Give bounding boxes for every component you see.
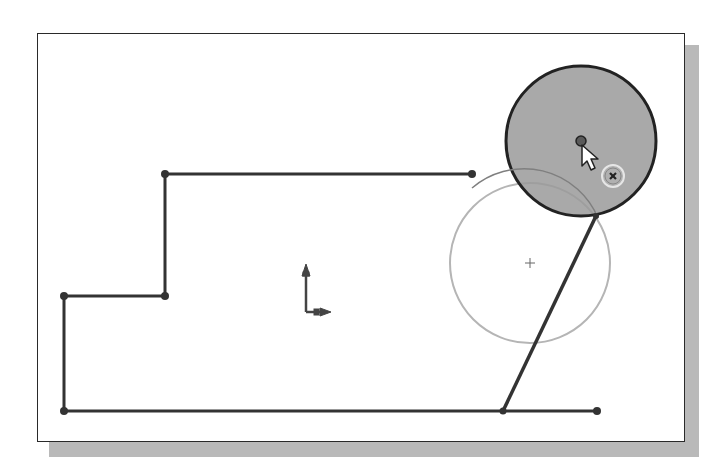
endpoint[interactable]	[593, 213, 599, 219]
circle-center-point[interactable]	[576, 136, 586, 146]
endpoint[interactable]	[500, 408, 507, 415]
endpoint[interactable]	[60, 407, 68, 415]
endpoint[interactable]	[468, 170, 476, 178]
sketch-viewport	[0, 0, 727, 476]
endpoint[interactable]	[593, 407, 601, 415]
tangent-line[interactable]	[503, 216, 596, 411]
endpoint[interactable]	[161, 170, 169, 178]
endpoint[interactable]	[60, 292, 68, 300]
sketch-geometry[interactable]	[0, 0, 727, 476]
center-plus-icon	[525, 258, 535, 268]
coincident-inference-icon	[602, 165, 624, 187]
origin-axes-icon	[302, 264, 331, 316]
profile-polyline[interactable]	[64, 174, 597, 411]
endpoint[interactable]	[161, 292, 169, 300]
